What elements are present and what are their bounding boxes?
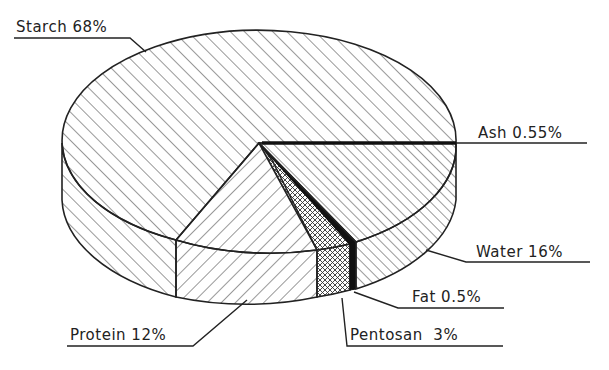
label-pentosan: Pentosan 3% <box>350 326 458 344</box>
label-starch: Starch 68% <box>16 18 107 36</box>
label-fat: Fat 0.5% <box>412 288 481 306</box>
slice-fat-side <box>350 242 356 290</box>
label-ash: Ash 0.55% <box>478 124 563 142</box>
pie-chart: Starch 68% Ash 0.55% Water 16% Fat 0.5% … <box>0 0 609 370</box>
label-protein: Protein 12% <box>70 326 166 344</box>
leader-starch <box>14 38 146 52</box>
slice-pentosan-side <box>317 244 350 297</box>
label-water: Water 16% <box>476 243 563 261</box>
